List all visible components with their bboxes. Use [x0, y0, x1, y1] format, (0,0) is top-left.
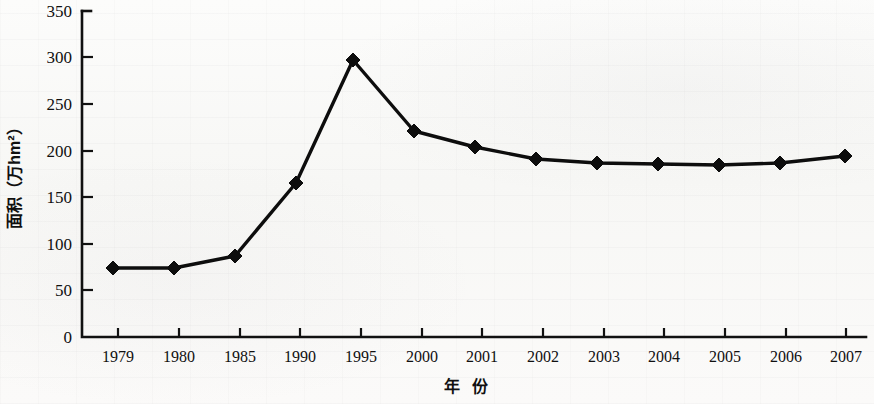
x-tick-label-1985: 1985	[224, 348, 256, 365]
x-tick-label-2007: 2007	[830, 348, 862, 365]
x-tick-label-1990: 1990	[284, 348, 316, 365]
x-tick-label-1980: 1980	[163, 348, 195, 365]
y-tick-label-300: 300	[47, 48, 73, 67]
data-point-2001	[468, 140, 482, 154]
x-tick-label-2003: 2003	[588, 348, 620, 365]
x-tick-label-2006: 2006	[770, 348, 802, 365]
y-tick-label-50: 50	[55, 281, 72, 300]
data-point-2002	[529, 152, 543, 166]
x-tick-label-2005: 2005	[709, 348, 741, 365]
x-tick-label-2002: 2002	[527, 348, 559, 365]
x-tick-label-1995: 1995	[345, 348, 377, 365]
x-axis-title: 年 份	[444, 377, 492, 395]
data-point-1980	[167, 261, 181, 275]
y-tick-label-150: 150	[47, 188, 73, 207]
y-tick-label-100: 100	[47, 235, 73, 254]
data-point-2003	[590, 156, 604, 170]
data-point-2006	[773, 156, 787, 170]
data-point-2007	[838, 149, 852, 163]
x-axis-ticks	[118, 328, 846, 337]
chart-canvas: 面积（万hm²） 350 300 250 200 150 100 50 0	[0, 0, 874, 404]
y-tick-label-350: 350	[47, 2, 73, 21]
y-tick-label-250: 250	[47, 95, 73, 114]
y-tick-label-0: 0	[64, 328, 73, 347]
x-tick-label-1979: 1979	[102, 348, 134, 365]
y-tick-label-200: 200	[47, 142, 73, 161]
y-axis-tick-labels: 350 300 250 200 150 100 50 0	[47, 2, 73, 347]
line-chart: 面积（万hm²） 350 300 250 200 150 100 50 0	[0, 0, 874, 404]
y-axis-ticks	[82, 57, 93, 290]
data-point-2005	[712, 158, 726, 172]
x-tick-label-2004: 2004	[648, 348, 680, 365]
x-tick-label-2000: 2000	[406, 348, 438, 365]
axis-frame	[82, 11, 866, 337]
x-axis-tick-labels: 1979 1980 1985 1990 1995 2000 2001 2002 …	[102, 348, 862, 365]
x-tick-label-2001: 2001	[466, 348, 498, 365]
data-point-2004	[651, 157, 665, 171]
data-series-line	[113, 60, 845, 268]
data-point-1979	[106, 261, 120, 275]
y-axis-title: 面积（万hm²）	[6, 119, 23, 228]
